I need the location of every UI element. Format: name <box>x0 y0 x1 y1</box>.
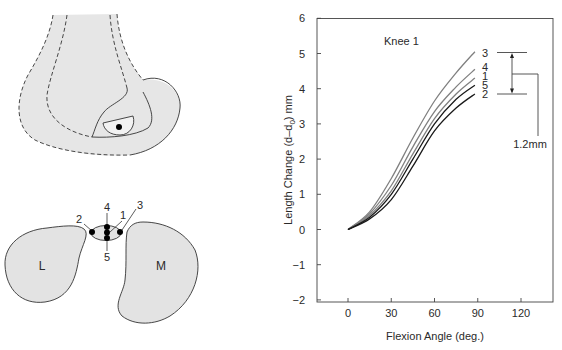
point-label-2: 2 <box>76 213 82 225</box>
chart-series <box>348 52 475 230</box>
insertion-point-dot <box>116 124 122 130</box>
point-4-dot <box>104 224 110 230</box>
chart-title: Knee 1 <box>384 35 419 47</box>
point-2-dot <box>89 229 95 235</box>
cross-section-diagram: L M 2 4 1 3 5 <box>5 199 198 323</box>
femur-diagram <box>19 14 180 156</box>
length-change-chart: −2−10123456 0306090120 34152 Knee 1 Flex… <box>282 12 553 342</box>
y-tick-label: 3 <box>299 118 305 130</box>
series-label-2: 2 <box>482 88 488 100</box>
y-tick-label: 0 <box>299 224 305 236</box>
y-tick-label: 1 <box>299 188 305 200</box>
bracket-connector <box>512 74 538 136</box>
x-tick-label: 0 <box>345 307 351 319</box>
y-axis-label-end: ) mm <box>282 95 294 120</box>
lateral-label: L <box>39 259 46 273</box>
medial-label: M <box>156 259 166 273</box>
x-axis-ticks: 0306090120 <box>345 298 530 319</box>
series-label-3: 3 <box>482 47 488 59</box>
x-tick-label: 60 <box>428 307 440 319</box>
plot-frame <box>317 19 553 303</box>
x-tick-label: 30 <box>385 307 397 319</box>
range-bracket-annotation: 1.2mm <box>497 53 547 151</box>
x-tick-label: 90 <box>472 307 484 319</box>
y-tick-label: −2 <box>292 294 305 306</box>
series-line-1 <box>348 78 475 229</box>
arrow-down-icon <box>510 89 514 94</box>
lateral-condyle-shape <box>5 226 86 303</box>
point-3-dot <box>117 229 123 235</box>
x-axis-label: Flexion Angle (deg.) <box>386 330 484 342</box>
y-tick-label: 2 <box>299 153 305 165</box>
point-5-dot <box>104 235 110 241</box>
figure-canvas: L M 2 4 1 3 5 −2−10123456 0306090120 341… <box>0 0 562 350</box>
femur-outline-fill <box>19 14 180 156</box>
point-label-4: 4 <box>104 201 110 213</box>
y-tick-label: 4 <box>299 83 305 95</box>
point-label-5: 5 <box>104 251 110 263</box>
point-label-1: 1 <box>120 209 126 221</box>
series-end-labels: 34152 <box>482 47 488 100</box>
y-tick-label: 5 <box>299 48 305 60</box>
point-label-3: 3 <box>137 199 143 211</box>
y-axis-label-main: Length Change (d–d <box>282 125 294 225</box>
y-axis-label: Length Change (d–d0) mm <box>282 95 297 225</box>
arrow-up-icon <box>510 53 514 58</box>
series-line-3 <box>348 52 475 230</box>
y-tick-label: 6 <box>299 12 305 24</box>
range-label: 1.2mm <box>513 138 547 150</box>
y-tick-label: −1 <box>292 259 305 271</box>
x-tick-label: 120 <box>512 307 530 319</box>
point-1-dot <box>104 230 110 236</box>
